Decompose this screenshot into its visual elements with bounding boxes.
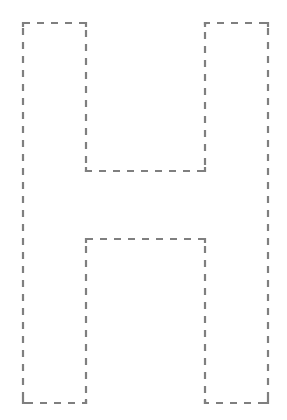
letter-h-tracing-figure xyxy=(0,0,287,420)
background xyxy=(0,0,287,420)
